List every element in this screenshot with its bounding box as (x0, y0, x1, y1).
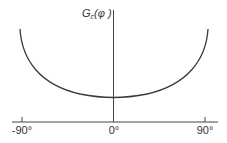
x-tick-label-0: 0° (109, 124, 120, 136)
x-tick-label-neg90: -90° (12, 124, 32, 136)
chart: Gc(φ ) -90° 0° 90° (0, 0, 227, 143)
y-axis-label: Gc(φ ) (82, 7, 112, 20)
x-tick-label-pos90: 90° (197, 124, 214, 136)
